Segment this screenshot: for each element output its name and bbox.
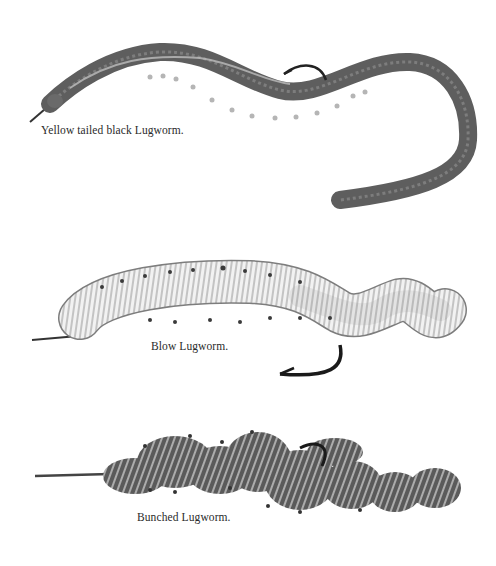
lugworm-illustration-plate: Yellow tailed black Lugworm. Blow Lugwor… xyxy=(0,0,496,566)
blow-lugworm-drawing xyxy=(32,266,445,375)
caption-bunched-lugworm: Bunched Lugworm. xyxy=(137,511,231,523)
lugworm-drawings xyxy=(0,0,496,566)
hook-shank-line xyxy=(35,474,110,476)
bunched-lugworm-drawing xyxy=(35,430,461,514)
caption-blow-lugworm: Blow Lugworm. xyxy=(151,340,228,352)
caption-yellow-tailed-lugworm: Yellow tailed black Lugworm. xyxy=(41,124,184,136)
